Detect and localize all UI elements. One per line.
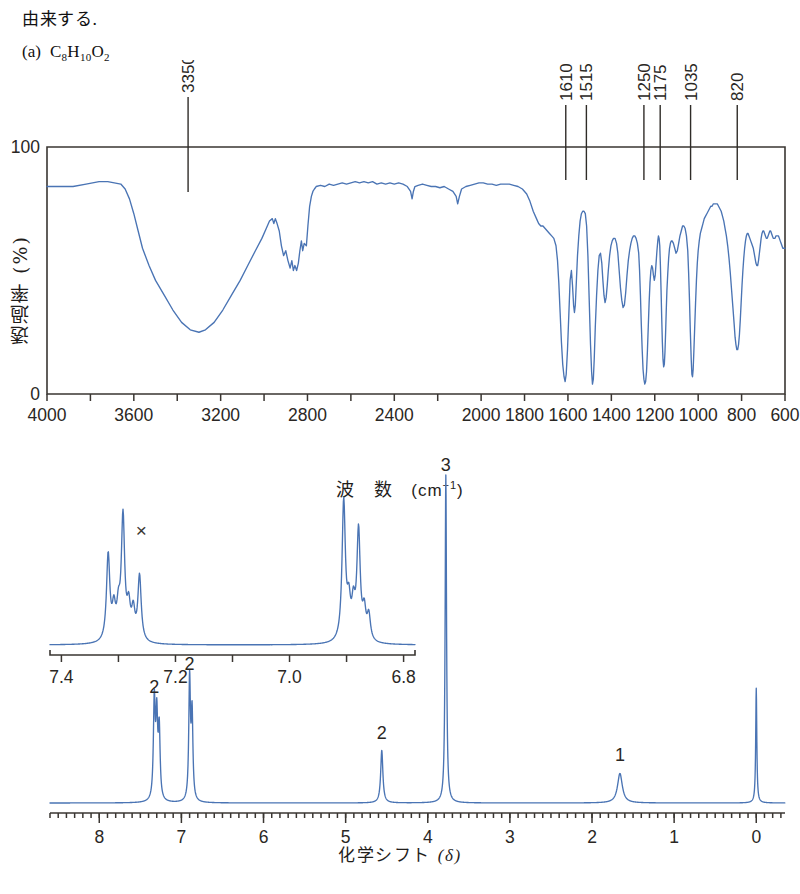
svg-text:4000: 4000 [28, 405, 67, 425]
integration-label: 3 [441, 455, 451, 475]
svg-text:6.8: 6.8 [391, 667, 415, 687]
integration-label: 2 [377, 723, 387, 743]
svg-text:820: 820 [728, 73, 747, 101]
svg-text:1515: 1515 [577, 63, 596, 101]
nmr-spectrum-svg: 7.47.27.06.8×87654321022231 [0, 455, 800, 855]
svg-text:1200: 1200 [635, 405, 674, 425]
nmr-x-axis-delta: (δ) [438, 846, 462, 865]
item-label: (a) [22, 42, 41, 61]
svg-text:600: 600 [770, 405, 799, 425]
nmr-x-axis-label: 化学シフト (δ) [0, 841, 800, 866]
svg-text:1600: 1600 [548, 405, 587, 425]
svg-text:7.0: 7.0 [277, 667, 302, 687]
svg-text:800: 800 [727, 405, 756, 425]
solvent-peak-marker: × [136, 520, 147, 541]
svg-text:1400: 1400 [592, 405, 631, 425]
nmr-x-axis-label-main: 化学シフト [338, 845, 431, 865]
ir-spectrum-panel: 透過率 (%) 40003600320028002400200018001600… [0, 60, 800, 460]
svg-text:1000: 1000 [679, 405, 718, 425]
ir-spectrum-svg: 4000360032002800240020001800160014001200… [0, 60, 800, 460]
svg-text:1035: 1035 [682, 63, 701, 101]
integration-label: 2 [149, 677, 159, 697]
svg-text:7.4: 7.4 [49, 667, 74, 687]
page-root: 由来する. (a)C8H10O2 透過率 (%) 400036003200280… [0, 0, 800, 894]
intro-line: 由来する. [22, 4, 422, 34]
nmr-spectrum-panel: 7.47.27.06.8×87654321022231 化学シフト (δ) [0, 455, 800, 855]
svg-text:3200: 3200 [201, 405, 240, 425]
svg-text:1610: 1610 [557, 63, 576, 101]
svg-text:3600: 3600 [114, 405, 153, 425]
svg-text:2000: 2000 [462, 405, 501, 425]
integration-label: 1 [615, 745, 625, 765]
svg-text:3350: 3350 [179, 60, 198, 93]
svg-text:2800: 2800 [288, 405, 327, 425]
svg-text:1175: 1175 [651, 64, 670, 101]
molecular-formula: C8H10O2 [50, 42, 110, 61]
svg-text:2400: 2400 [375, 405, 414, 425]
svg-text:0: 0 [30, 384, 40, 404]
svg-text:100: 100 [11, 137, 40, 157]
ir-y-axis-label: 透過率 (%) [6, 235, 33, 345]
svg-text:1800: 1800 [505, 405, 544, 425]
integration-label: 2 [185, 654, 195, 674]
